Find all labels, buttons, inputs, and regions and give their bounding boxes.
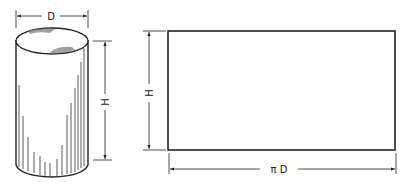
- cylinder-height-label: H: [100, 98, 111, 106]
- development-rectangle: [168, 31, 395, 150]
- cylinder-development-diagram: D H H π D: [0, 0, 404, 187]
- cylinder: [16, 28, 88, 177]
- cylinder-diameter-dimension: D: [16, 10, 88, 28]
- development-height-dimension: H: [143, 31, 166, 150]
- development-height-label: H: [144, 89, 155, 97]
- cylinder-height-dimension: H: [93, 41, 112, 160]
- development-width-label: π D: [271, 164, 288, 175]
- development-width-dimension: π D: [169, 153, 396, 175]
- diameter-label: D: [47, 11, 55, 22]
